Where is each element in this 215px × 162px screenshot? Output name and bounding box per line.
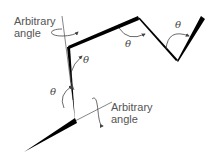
theta-label-3: θ: [175, 19, 181, 30]
label-line: Arbitrary: [111, 101, 153, 113]
label-line: Arbitrary: [14, 15, 56, 27]
theta-arc-4: [62, 86, 72, 108]
theta-label-4: θ: [50, 86, 56, 97]
polymer-chain-diagram: Arbitrary angle Arbitrary angle θ θ θ θ: [0, 0, 215, 162]
theta-label-1: θ: [83, 54, 89, 65]
arbitrary-angle-label-bottom: Arbitrary angle: [111, 101, 153, 125]
rotation-arrow-bottom: [92, 98, 103, 126]
arbitrary-angle-label-top: Arbitrary angle: [14, 15, 56, 39]
bond-4: [137, 17, 178, 61]
label-line: angle: [14, 27, 56, 39]
bond-1: [24, 118, 77, 152]
rotation-axis-bottom: [75, 102, 112, 121]
theta-arc-2: [119, 28, 145, 37]
bond-5: [177, 16, 205, 62]
label-line: angle: [111, 113, 153, 125]
theta-label-2: θ: [125, 38, 131, 49]
bond-2: [67, 47, 75, 121]
rotation-axis-top: [62, 16, 73, 100]
